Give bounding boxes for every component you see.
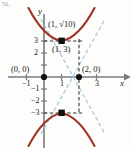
x-axis-arrow: [124, 74, 131, 81]
point-label-x-intercept: (2, 0): [82, 65, 100, 74]
point-label-focus-upper: (1, √10): [48, 20, 75, 29]
point-vertex-lower: [58, 110, 64, 116]
point-origin: [41, 74, 47, 80]
x-axis-label: x: [120, 79, 124, 88]
point-label-vertex-upper: (1, 3): [52, 45, 70, 54]
hyperbola-figure: 51. y x 3 2 −1 −2: [0, 0, 131, 150]
x-tick-label-1: 1: [60, 80, 64, 88]
hyperbola-lower-branch: [29, 113, 95, 146]
y-tick-label-3: 3: [34, 37, 38, 45]
y-tick-label-2: 2: [34, 49, 38, 57]
point-label-origin: (0, 0): [11, 65, 29, 74]
x-tick-label-3: 3: [95, 80, 99, 88]
point-x-intercept: [76, 74, 82, 80]
y-tick-label-neg1: −1: [31, 85, 40, 93]
y-tick-label-neg2: −2: [31, 97, 40, 105]
y-axis-label: y: [38, 7, 42, 16]
y-tick-label-neg3: −3: [31, 109, 40, 117]
x-tick-label-neg1: −1: [22, 80, 31, 88]
